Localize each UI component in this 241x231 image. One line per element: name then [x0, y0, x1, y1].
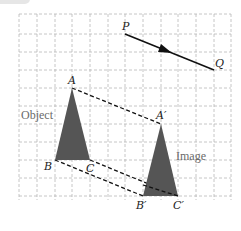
label-a-prime: A′ [155, 109, 167, 122]
label-a: A [67, 74, 76, 87]
label-c: C [86, 162, 95, 175]
object-word: Object [21, 108, 54, 122]
image-word: Image [176, 149, 206, 163]
corner-tab [0, 0, 30, 4]
label-p: P [121, 20, 130, 33]
label-q: Q [215, 57, 224, 70]
image-triangle [143, 124, 178, 196]
label-b-prime: B′ [135, 199, 147, 212]
label-b: B [43, 160, 52, 173]
arrowhead-icon [158, 44, 172, 53]
label-c-prime: C′ [173, 199, 184, 212]
translation-diagram: P Q A B C A′ B′ C′ Object Image [0, 0, 241, 231]
